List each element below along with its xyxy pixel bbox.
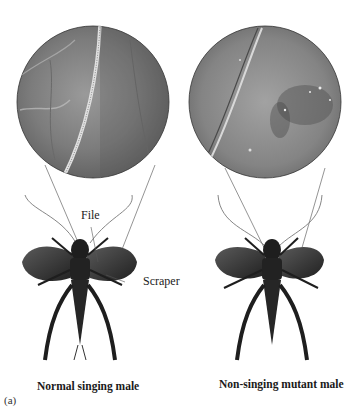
cricket-mutant-male — [215, 195, 324, 360]
inset-normal-male — [15, 25, 180, 186]
figure-illustration — [0, 0, 359, 408]
scraper-label: Scraper — [143, 274, 180, 289]
file-label: File — [81, 208, 100, 223]
inset-mutant-male — [189, 26, 341, 178]
caption-normal-male: Normal singing male — [37, 380, 139, 392]
figure: File Scraper Normal singing male Non-sin… — [0, 0, 359, 408]
cricket-normal-male — [22, 195, 137, 360]
caption-mutant-male: Non-singing mutant male — [219, 378, 344, 390]
panel-label: (a) — [4, 394, 16, 406]
